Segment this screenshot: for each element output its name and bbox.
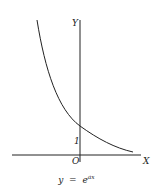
y-intercept-label: 1 <box>74 137 80 146</box>
formula-exponent: ax <box>88 173 95 180</box>
exponential-graph: Y X O 1 y = eax <box>0 0 153 189</box>
x-axis-label: X <box>143 157 149 166</box>
y-axis-label: Y <box>72 19 78 28</box>
exponential-curve <box>37 20 133 152</box>
origin-label: O <box>72 157 79 166</box>
formula: y = eax <box>0 173 153 185</box>
formula-base: y = e <box>58 175 87 185</box>
